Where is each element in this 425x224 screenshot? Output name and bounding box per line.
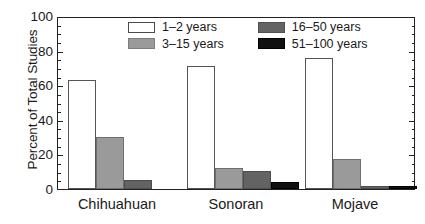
bar-sonoran-series-1: [187, 66, 215, 189]
legend-swatch-icon-16-50-years: [258, 22, 285, 33]
y-tick-label-80: 80: [7, 45, 53, 59]
bar-chart-figure: Percent of Total Studies 100 80 60 40 20…: [0, 0, 425, 224]
bar-sonoran-series-2: [215, 168, 243, 189]
bar-mojave-series-3: [361, 186, 389, 189]
legend-label-16-50-years: 16–50 years: [292, 21, 361, 34]
y-tick-label-0: 0: [7, 183, 53, 197]
y-tick-label-60: 60: [7, 79, 53, 93]
legend-label-51-100-years: 51–100 years: [292, 38, 368, 51]
x-tick-label-mojave: Mojave: [332, 196, 379, 212]
legend-label-3-15-years: 3–15 years: [162, 38, 224, 51]
bar-mojave-series-1: [305, 58, 333, 189]
legend-swatch-icon-51-100-years: [258, 38, 285, 49]
bar-chihuahuan-series-1: [68, 80, 96, 189]
bar-mojave-series-4: [389, 186, 417, 189]
legend-item-3-15-years: 3–15 years: [128, 38, 224, 51]
legend-item-51-100-years: 51–100 years: [258, 38, 368, 51]
x-tick-label-sonoran: Sonoran: [209, 196, 264, 212]
y-tick-label-100: 100: [7, 10, 53, 24]
legend-label-1-2-years: 1–2 years: [162, 21, 217, 34]
legend-item-16-50-years: 16–50 years: [258, 21, 368, 34]
x-tick-label-chihuahuan: Chihuahuan: [78, 196, 156, 212]
y-axis-tick-labels: 100 80 60 40 20 0: [0, 0, 53, 224]
bar-sonoran-series-4: [271, 182, 299, 189]
y-tick-label-20: 20: [7, 149, 53, 163]
legend-swatch-icon-1-2-years: [128, 22, 155, 33]
bar-mojave-series-2: [333, 159, 361, 189]
y-tick-label-40: 40: [7, 114, 53, 128]
legend: 1–2 years 16–50 years 3–15 years 51–100 …: [128, 21, 368, 50]
legend-swatch-icon-3-15-years: [128, 38, 155, 49]
bar-sonoran-series-3: [243, 171, 271, 189]
legend-item-1-2-years: 1–2 years: [128, 21, 224, 34]
bar-chihuahuan-series-2: [96, 137, 124, 189]
bar-chihuahuan-series-3: [124, 180, 152, 189]
